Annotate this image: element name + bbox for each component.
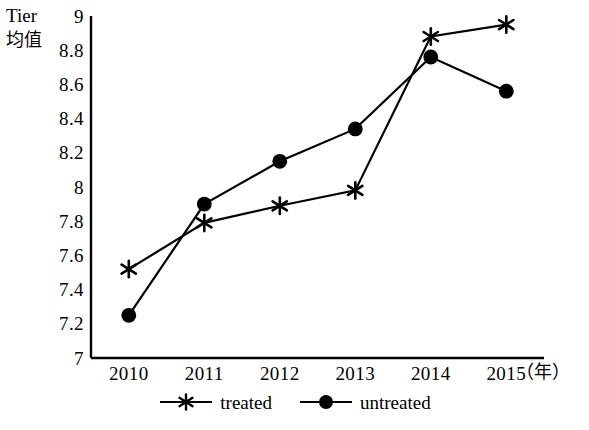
- asterisk-marker-icon: [158, 392, 214, 412]
- legend-label-untreated: untreated: [360, 393, 431, 412]
- series-line-untreated: [129, 57, 507, 315]
- legend-entry-treated: treated: [158, 392, 272, 412]
- line-chart-figure: Tier均值 9 8.8 8.6 8.4 8.2 8 7.8 7.6 7.4 7…: [0, 0, 589, 430]
- data-point-untreated: [197, 197, 212, 212]
- data-point-treated: [122, 261, 136, 277]
- legend-entry-untreated: untreated: [298, 392, 431, 412]
- data-point-untreated: [499, 84, 514, 99]
- data-point-untreated: [348, 121, 363, 136]
- data-point-untreated: [121, 308, 136, 323]
- circle-marker-icon: [298, 392, 354, 412]
- chart-legend: treated untreated: [0, 392, 589, 412]
- legend-label-treated: treated: [220, 393, 272, 412]
- data-point-untreated: [423, 50, 438, 65]
- data-point-untreated: [272, 154, 287, 169]
- plot-area: [0, 0, 589, 430]
